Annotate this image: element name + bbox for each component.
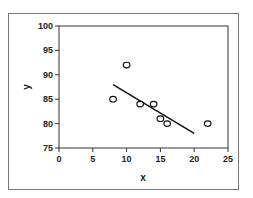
x-tick-label-1: 5 <box>90 154 95 164</box>
y-tick-label-5: 100 <box>38 21 53 31</box>
data-point-6 <box>204 121 211 127</box>
data-point-0 <box>110 96 117 102</box>
x-tick-label-4: 20 <box>189 154 199 164</box>
data-point-4 <box>157 116 164 122</box>
x-tick-label-3: 15 <box>155 154 165 164</box>
y-tick-label-2: 85 <box>43 94 53 104</box>
x-tick-label-0: 0 <box>56 154 61 164</box>
x-axis: 0510152025 <box>56 148 233 164</box>
x-tick-label-5: 25 <box>223 154 233 164</box>
x-tick-label-2: 10 <box>122 154 132 164</box>
y-axis-title: y <box>21 84 32 90</box>
x-axis-title: x <box>140 172 146 183</box>
y-tick-label-4: 95 <box>43 45 53 55</box>
y-axis: 7580859095100 <box>38 21 59 153</box>
data-point-2 <box>137 101 144 107</box>
data-point-1 <box>123 62 130 68</box>
scatter-chart: 7580859095100 0510152025 y x <box>0 0 253 198</box>
data-point-5 <box>164 121 171 127</box>
y-tick-label-0: 75 <box>43 143 53 153</box>
data-point-3 <box>150 101 157 107</box>
plot-area <box>59 26 228 148</box>
y-tick-label-3: 90 <box>43 70 53 80</box>
y-tick-label-1: 80 <box>43 119 53 129</box>
